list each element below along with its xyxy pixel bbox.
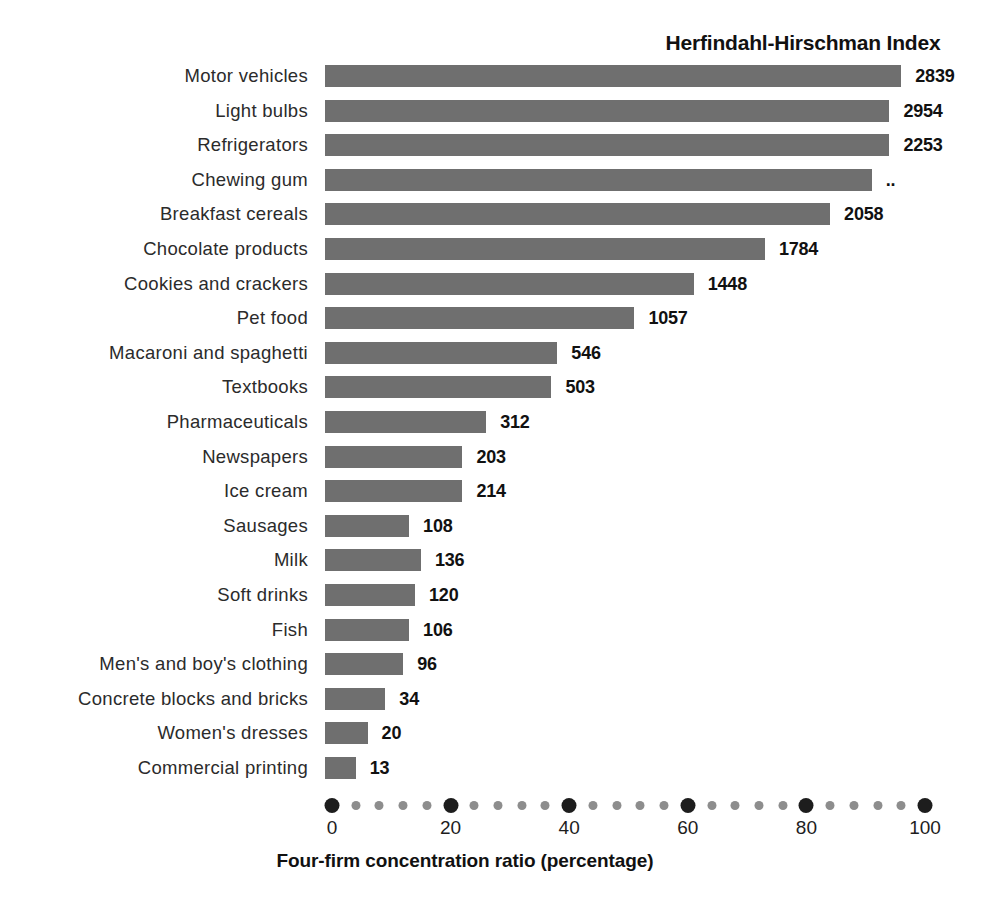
x-axis-tick-label: 80 (796, 817, 817, 839)
bar-fill (325, 307, 634, 329)
x-axis-major-tick (680, 798, 695, 813)
category-label: Chocolate products (143, 236, 308, 262)
category-label: Refrigerators (197, 132, 308, 158)
bar-value-label: 1784 (779, 236, 818, 262)
bar-value-label: 2058 (844, 201, 883, 227)
bar-row: Chewing gum.. (0, 167, 998, 193)
x-axis-tick-label: 20 (440, 817, 461, 839)
bar-fill (325, 203, 830, 225)
category-label: Concrete blocks and bricks (78, 686, 308, 712)
x-axis-title-text: Four-firm concentration ratio (percentag… (277, 850, 654, 872)
x-axis-minor-tick (375, 801, 384, 810)
bar-value-label: 1057 (648, 305, 687, 331)
bar (325, 757, 356, 779)
bar-row: Chocolate products1784 (0, 236, 998, 262)
bar-row: Sausages108 (0, 513, 998, 539)
bar-row: Macaroni and spaghetti546 (0, 340, 998, 366)
bar-value-label: 120 (429, 582, 458, 608)
bar (325, 515, 409, 537)
bar-value-label: 96 (417, 651, 437, 677)
bar (325, 549, 421, 571)
bar-chart: Herfindahl-Hirschman Index Motor vehicle… (0, 0, 998, 904)
bar-value-label: 546 (571, 340, 600, 366)
bar-row: Light bulbs2954 (0, 98, 998, 124)
category-label: Men's and boy's clothing (99, 651, 308, 677)
x-axis-tick-label: 100 (909, 817, 941, 839)
x-axis-minor-tick (826, 801, 835, 810)
category-label: Light bulbs (215, 98, 308, 124)
category-label: Pharmaceuticals (167, 409, 308, 435)
category-label: Macaroni and spaghetti (109, 340, 308, 366)
bar-fill (325, 376, 551, 398)
bar-row: Pet food1057 (0, 305, 998, 331)
bar (325, 619, 409, 641)
x-axis-major-tick (799, 798, 814, 813)
category-label: Chewing gum (192, 167, 308, 193)
x-axis-minor-tick (517, 801, 526, 810)
bar-fill (325, 722, 368, 744)
bar-fill (325, 757, 356, 779)
x-axis-minor-tick (897, 801, 906, 810)
bar (325, 584, 415, 606)
x-axis-minor-tick (470, 801, 479, 810)
bar (325, 376, 551, 398)
category-label: Sausages (223, 513, 308, 539)
bar-row: Pharmaceuticals312 (0, 409, 998, 435)
bar-value-label: 503 (565, 374, 594, 400)
bar-value-label: 106 (423, 617, 452, 643)
x-axis-minor-tick (399, 801, 408, 810)
bar-row: Textbooks503 (0, 374, 998, 400)
x-axis-minor-tick (707, 801, 716, 810)
category-label: Breakfast cereals (160, 201, 308, 227)
bar-fill (325, 342, 557, 364)
bar (325, 134, 889, 156)
bar (325, 273, 694, 295)
x-axis-major-tick (562, 798, 577, 813)
x-axis-minor-tick (588, 801, 597, 810)
bar-row: Cookies and crackers1448 (0, 271, 998, 297)
x-axis-minor-tick (873, 801, 882, 810)
category-label: Textbooks (222, 374, 308, 400)
bar (325, 722, 368, 744)
x-axis-minor-tick (849, 801, 858, 810)
x-axis-minor-tick (494, 801, 503, 810)
x-axis-title: Four-firm concentration ratio (percentag… (0, 850, 998, 872)
category-label: Women's dresses (157, 720, 308, 746)
category-label: Pet food (237, 305, 308, 331)
bar-fill (325, 653, 403, 675)
category-label: Commercial printing (138, 755, 308, 781)
x-axis-major-tick (918, 798, 933, 813)
bar (325, 307, 634, 329)
bar-row: Commercial printing13 (0, 755, 998, 781)
bar-value-label: .. (886, 167, 896, 193)
x-axis: Four-firm concentration ratio (percentag… (0, 795, 998, 904)
bar-row: Refrigerators2253 (0, 132, 998, 158)
category-label: Cookies and crackers (124, 271, 308, 297)
bar-value-label: 34 (399, 686, 419, 712)
bar-row: Women's dresses20 (0, 720, 998, 746)
x-axis-minor-tick (612, 801, 621, 810)
bar-row: Fish106 (0, 617, 998, 643)
bar-fill (325, 515, 409, 537)
x-axis-tick-label: 0 (327, 817, 338, 839)
bar (325, 342, 557, 364)
bar-row: Newspapers203 (0, 444, 998, 470)
x-axis-tick-label: 40 (559, 817, 580, 839)
x-axis-minor-tick (636, 801, 645, 810)
bar (325, 653, 403, 675)
x-axis-minor-tick (731, 801, 740, 810)
x-axis-minor-tick (351, 801, 360, 810)
bar-fill (325, 134, 889, 156)
bar-value-label: 2839 (915, 63, 954, 89)
category-label: Milk (274, 547, 308, 573)
bar (325, 65, 901, 87)
bar (325, 411, 486, 433)
bar-value-label: 13 (370, 755, 390, 781)
bar-fill (325, 480, 462, 502)
bar-fill (325, 584, 415, 606)
bar (325, 446, 462, 468)
x-axis-minor-tick (541, 801, 550, 810)
plot-area: Motor vehicles2839Light bulbs2954Refrige… (0, 63, 998, 793)
bar-fill (325, 169, 872, 191)
bar-fill (325, 238, 765, 260)
